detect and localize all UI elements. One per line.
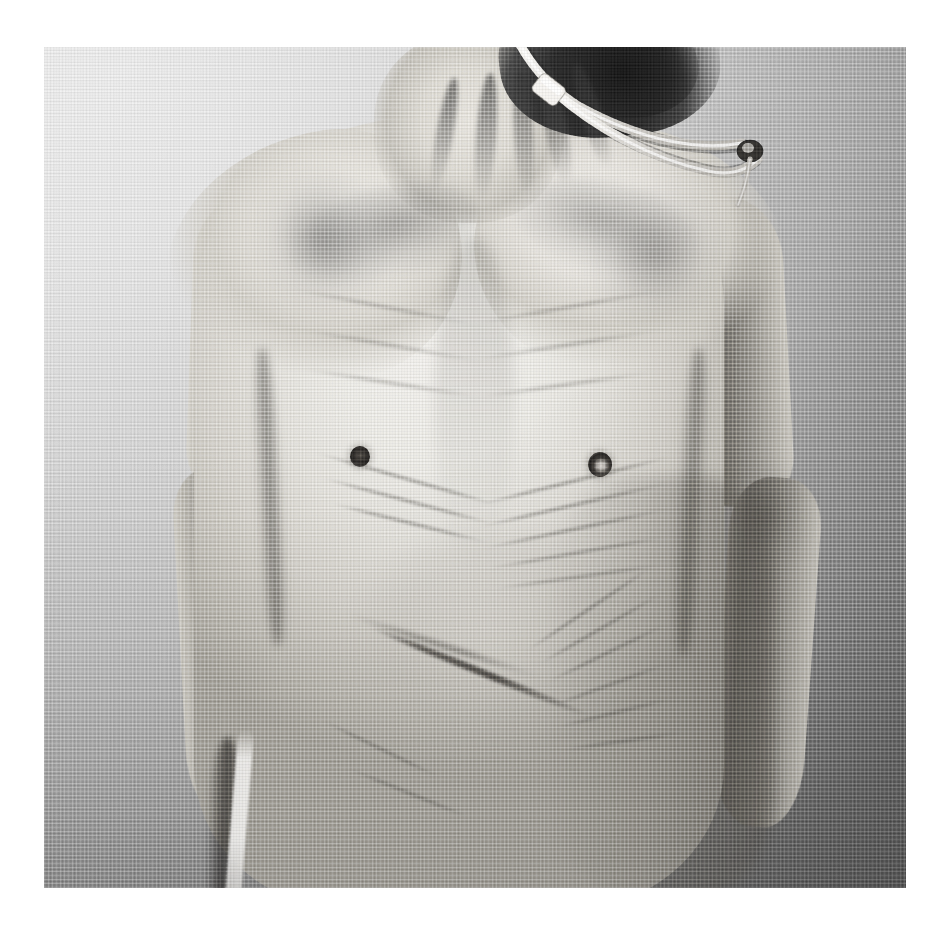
page-root — [0, 0, 948, 950]
photograph-print — [44, 47, 906, 888]
medical-tubing — [44, 47, 906, 888]
